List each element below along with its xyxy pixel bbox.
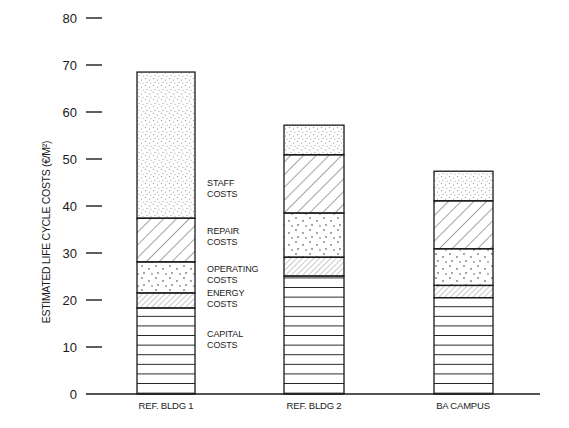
segment-operating-costs <box>434 249 493 286</box>
y-axis: 01020304050607080 <box>63 11 102 402</box>
svg-text:COSTS: COSTS <box>207 299 238 309</box>
segment-energy-costs <box>137 293 195 308</box>
segment-operating-costs <box>284 213 344 257</box>
segment-repair-costs <box>434 201 493 249</box>
y-tick-label: 20 <box>63 293 77 308</box>
svg-text:REPAIR: REPAIR <box>207 226 240 236</box>
y-tick-10: 10 <box>63 340 102 355</box>
segment-staff-costs <box>137 72 195 218</box>
y-tick-label: 50 <box>63 152 77 167</box>
svg-text:COSTS: COSTS <box>207 340 238 350</box>
svg-text:OPERATING: OPERATING <box>207 264 259 274</box>
svg-text:ENERGY: ENERGY <box>207 288 245 298</box>
segment-staff-costs <box>284 125 344 155</box>
y-tick-40: 40 <box>63 199 102 214</box>
y-axis-label: ESTIMATED LIFE CYCLE COSTS (€/M²) <box>40 141 52 323</box>
segment-capital-costs <box>137 308 195 394</box>
segment-labels: STAFF COSTS REPAIR COSTS OPERATING COSTS… <box>207 178 259 350</box>
stacked-bar-chart: 01020304050607080 ESTIMATED LIFE CYCLE C… <box>0 0 569 428</box>
y-tick-80: 80 <box>63 11 102 26</box>
y-tick-70: 70 <box>63 58 102 73</box>
segment-label-capital: CAPITAL COSTS <box>207 329 243 350</box>
y-tick-label: 30 <box>63 246 77 261</box>
y-tick-label: 10 <box>63 340 77 355</box>
y-tick-60: 60 <box>63 105 102 120</box>
category-label-ba-campus: BA CAMPUS <box>436 400 490 411</box>
category-labels: REF. BLDG 1 REF. BLDG 2 BA CAMPUS <box>139 400 490 411</box>
svg-text:COSTS: COSTS <box>207 189 238 199</box>
svg-text:COSTS: COSTS <box>207 237 238 247</box>
segment-label-staff: STAFF COSTS <box>207 178 238 199</box>
svg-text:STAFF: STAFF <box>207 178 235 188</box>
y-tick-30: 30 <box>63 246 102 261</box>
segment-energy-costs <box>284 257 344 276</box>
y-tick-label: 70 <box>63 58 77 73</box>
y-tick-label: 40 <box>63 199 77 214</box>
bar-ref-bldg-2 <box>284 125 344 394</box>
y-tick-50: 50 <box>63 152 102 167</box>
category-label-ref-bldg-2: REF. BLDG 2 <box>287 400 342 411</box>
y-tick-20: 20 <box>63 293 102 308</box>
y-axis-title: ESTIMATED LIFE CYCLE COSTS (€/M²) <box>40 141 52 323</box>
bar-ref-bldg-1 <box>137 72 195 394</box>
y-tick-label: 0 <box>70 387 77 402</box>
svg-text:CAPITAL: CAPITAL <box>207 329 243 339</box>
category-label-ref-bldg-1: REF. BLDG 1 <box>139 400 194 411</box>
svg-text:COSTS: COSTS <box>207 275 238 285</box>
segment-staff-costs <box>434 171 493 201</box>
bars <box>137 72 493 394</box>
bar-ba-campus <box>434 171 493 394</box>
y-tick-label: 60 <box>63 105 77 120</box>
segment-repair-costs <box>137 218 195 262</box>
segment-capital-costs <box>284 276 344 394</box>
segment-energy-costs <box>434 285 493 297</box>
segment-label-operating: OPERATING COSTS <box>207 264 259 285</box>
segment-label-repair: REPAIR COSTS <box>207 226 240 247</box>
segment-capital-costs <box>434 298 493 394</box>
segment-label-energy: ENERGY COSTS <box>207 288 245 309</box>
segment-operating-costs <box>137 262 195 293</box>
y-tick-0: 0 <box>70 387 77 402</box>
y-tick-label: 80 <box>63 11 77 26</box>
segment-repair-costs <box>284 155 344 213</box>
